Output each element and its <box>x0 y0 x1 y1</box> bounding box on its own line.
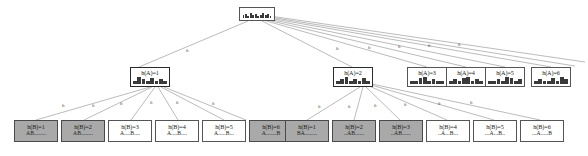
leaf-right-6[interactable]: h(B)=6 ...A.....B <box>520 120 564 142</box>
edge-hA1-L4 <box>158 87 178 120</box>
edge-label-R4: h <box>404 102 407 107</box>
edge-hA2-R2 <box>354 87 363 120</box>
node-hA1-sparkline <box>133 77 167 84</box>
edge-label-R6: h <box>470 100 473 105</box>
edge-root-hA5 <box>263 18 505 67</box>
leaf-left-5-sequence: A.....B... <box>214 130 234 136</box>
node-hA6[interactable]: h(A)=6 <box>531 67 571 87</box>
leaf-right-5-sequence: ...A...B.. <box>485 130 505 136</box>
leaf-right-5-label: h(B)=5 <box>486 123 503 130</box>
edge-root-extra-b <box>263 15 585 62</box>
edge-label-hA1: h <box>186 48 189 53</box>
node-hA4-sparkline <box>449 77 483 84</box>
node-hA5-sparkline <box>488 77 522 84</box>
edge-label-L4: h <box>150 100 153 105</box>
edge-label-L6: h <box>212 101 215 106</box>
leaf-left-5-label: h(B)=5 <box>215 123 232 130</box>
leaf-right-6-label: h(B)=6 <box>533 123 550 130</box>
leaf-right-6-sequence: ...A.....B <box>532 130 552 136</box>
leaf-right-5[interactable]: h(B)=5 ...A...B.. <box>473 120 517 142</box>
edge-label-hA5: h <box>428 43 431 48</box>
edge-label-L3: h <box>120 101 123 106</box>
leaf-left-3[interactable]: h(B)=3 A....B.... <box>108 120 152 142</box>
edge-root-hA6 <box>263 17 551 67</box>
node-hA1[interactable]: h(A)=1 <box>130 67 170 87</box>
edge-label-R2: h <box>348 104 351 109</box>
leaf-left-6-label: h(B)=6 <box>262 123 279 130</box>
edge-label-R1: h <box>318 104 321 109</box>
node-hA5[interactable]: h(A)=5 <box>485 67 525 87</box>
leaf-left-3-sequence: A....B.... <box>120 130 140 136</box>
node-hA2-label: h(A)=2 <box>344 69 362 76</box>
edge-label-L5: h <box>176 100 179 105</box>
leaf-right-2[interactable]: h(B)=2 ..AB...... <box>332 120 376 142</box>
leaf-left-4-label: h(B)=4 <box>168 123 185 130</box>
leaf-right-1[interactable]: h(B)=1 BA........ <box>285 120 329 142</box>
leaf-right-1-label: h(B)=1 <box>298 123 315 130</box>
leaf-right-4-label: h(B)=4 <box>439 123 456 130</box>
edge-root-hA4 <box>263 19 466 67</box>
edge-label-hA6: h <box>458 42 461 47</box>
leaf-left-6-sequence: A.......B <box>262 130 280 136</box>
edge-hA2-R1 <box>307 87 360 120</box>
leaf-left-1-label: h(B)=1 <box>27 123 44 130</box>
leaf-left-4[interactable]: h(B)=4 A....B.... <box>155 120 199 142</box>
leaf-right-3-sequence: ..AB...... <box>391 130 411 136</box>
leaf-right-3-label: h(B)=3 <box>392 123 409 130</box>
leaf-left-2[interactable]: h(B)=2 AB........ <box>61 120 105 142</box>
edge-label-L1: h <box>62 103 65 108</box>
node-hA3[interactable]: h(A)=3 <box>407 67 447 87</box>
edge-hA2-R6 <box>372 84 540 120</box>
game-tree-diagram: h(A)=1 h(A)=2 h(A)=3 h(A)=4 h(A)=5 h(A)=… <box>0 0 588 156</box>
edge-label-R3: h <box>374 103 377 108</box>
edge-root-extra-a <box>263 16 575 66</box>
node-hA5-label: h(A)=5 <box>496 69 514 76</box>
leaf-right-2-sequence: ..AB...... <box>344 130 364 136</box>
node-hA3-label: h(A)=3 <box>418 69 436 76</box>
leaf-right-2-label: h(B)=2 <box>345 123 362 130</box>
leaf-left-1[interactable]: h(B)=1 AB........ <box>14 120 58 142</box>
edge-label-R5: h <box>438 101 441 106</box>
leaf-right-4[interactable]: h(B)=4 ..A...B... <box>426 120 470 142</box>
node-hA1-label: h(A)=1 <box>141 69 159 76</box>
node-hA6-label: h(A)=6 <box>542 69 560 76</box>
edge-label-hA4: h <box>398 44 401 49</box>
leaf-left-3-label: h(B)=3 <box>121 123 138 130</box>
leaf-right-1-sequence: BA........ <box>297 130 317 136</box>
node-hA4[interactable]: h(A)=4 <box>446 67 486 87</box>
leaf-left-4-sequence: A....B.... <box>167 130 187 136</box>
leaf-left-2-sequence: AB........ <box>73 130 93 136</box>
root-sparkline <box>243 13 272 18</box>
leaf-right-3[interactable]: h(B)=3 ..AB...... <box>379 120 423 142</box>
node-hA3-sparkline <box>410 77 444 84</box>
leaf-left-2-label: h(B)=2 <box>74 123 91 130</box>
node-hA2-sparkline <box>336 77 370 84</box>
edge-label-hA2: h <box>336 46 339 51</box>
edge-hA2-R5 <box>371 85 494 120</box>
node-hA4-label: h(A)=4 <box>457 69 475 76</box>
edge-label-L2: h <box>92 103 95 108</box>
root-node[interactable] <box>239 7 275 21</box>
edge-root-hA1 <box>139 21 248 67</box>
node-hA6-sparkline <box>534 77 568 84</box>
leaf-right-4-sequence: ..A...B... <box>438 130 458 136</box>
node-hA2[interactable]: h(A)=2 <box>333 67 373 87</box>
leaf-left-1-sequence: AB........ <box>26 130 46 136</box>
edge-label-hA3: h <box>368 45 371 50</box>
leaf-left-5[interactable]: h(B)=5 A.....B... <box>202 120 246 142</box>
